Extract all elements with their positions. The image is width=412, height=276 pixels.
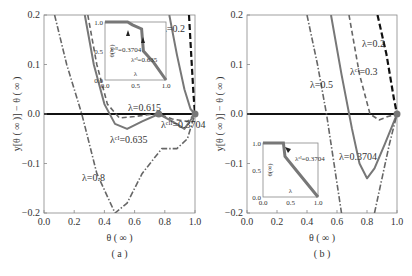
x-tick-label: 0.2 (68, 216, 81, 227)
inset-x-tick: 0.5 (131, 82, 140, 90)
curve-annotation: λ=0.3704 (339, 151, 377, 162)
x-tick-label: 0.8 (159, 216, 172, 227)
series-line (375, 114, 398, 213)
x-tick-label: 0.8 (361, 216, 374, 227)
panel-label: ( b ) (314, 248, 331, 260)
y-tick-label: −0.2 (225, 207, 243, 218)
inset-x-tick: 0.5 (286, 199, 295, 207)
marker-point (192, 111, 199, 118)
inset-y-tick: 1.0 (94, 19, 103, 27)
curve-annotation: λ=0.615 (128, 102, 161, 113)
chart-svg: 0.00.20.40.60.81.00.20.10.0−0.1−0.2λ=0.2… (0, 0, 412, 276)
y-axis-label: y[θ ( ∞ )] − θ ( ∞ ) (214, 77, 226, 151)
marker-point (394, 111, 401, 118)
y-tick-label: 0.0 (28, 108, 41, 119)
inset-y-label: θ(∞) (266, 163, 274, 177)
curve-annotation: λ=0.8 (82, 172, 105, 183)
y-tick-label: −0.1 (22, 158, 40, 169)
inset-x-label: λ (289, 187, 293, 195)
x-tick-label: 0.4 (301, 216, 314, 227)
inset-y-tick: 1.0 (252, 140, 261, 148)
inset-x-tick: 1.0 (314, 199, 323, 207)
y-tick-label: −0.2 (22, 207, 40, 218)
y-tick-label: 0.1 (231, 59, 244, 70)
panel-a: 0.00.20.40.60.81.00.20.10.0−0.1−0.2λ=0.2… (11, 9, 206, 260)
curve-annotation: λᶜᴵ=0.635 (110, 134, 148, 145)
inset-x-tick: 1.0 (162, 82, 171, 90)
curve-annotation: λ=0.2 (362, 38, 385, 49)
x-axis-label: θ ( ∞ ) (309, 232, 335, 244)
inset-annotation: λᶜᴵ=0.3704 (295, 155, 325, 163)
inset-annotation: λᶜᴵ=0.635 (131, 56, 158, 64)
panel-label: ( a ) (111, 248, 127, 260)
x-tick-label: 1.0 (391, 216, 404, 227)
x-tick-label: 0.6 (331, 216, 344, 227)
series-line (378, 15, 398, 114)
x-tick-label: 1.0 (189, 216, 202, 227)
series-line (189, 15, 195, 114)
x-tick-label: 0.2 (271, 216, 284, 227)
panel-b: 0.00.20.40.60.81.00.20.10.0−0.1−0.2λ=0.2… (214, 9, 403, 260)
inset-y-tick: 0.5 (94, 48, 103, 56)
inset-y-tick: 0.0 (94, 77, 103, 85)
y-tick-label: −0.1 (225, 158, 243, 169)
inset-y-tick: 0.5 (252, 167, 261, 175)
y-axis-label: y[θ ( ∞ )] − θ ( ∞ ) (11, 77, 23, 151)
curve-annotation: λᶜᴵᴵ=0.3704 (161, 119, 206, 130)
y-tick-label: 0.0 (231, 108, 244, 119)
x-axis-label: θ ( ∞ ) (106, 232, 132, 244)
inset-x-label: λ (134, 70, 138, 78)
curve-annotation: λᶜᴵ=0.3 (350, 66, 378, 77)
y-tick-label: 0.2 (231, 9, 244, 20)
inset-y-tick: 0.0 (252, 194, 261, 202)
inset-annotation: λᶜᴵᴵ=0.3704 (110, 46, 142, 54)
figure: 0.00.20.40.60.81.00.20.10.0−0.1−0.2λ=0.2… (0, 0, 412, 276)
x-tick-label: 0.6 (128, 216, 141, 227)
curve-annotation: λ=0.5 (310, 79, 333, 90)
x-tick-label: 0.4 (98, 216, 111, 227)
y-tick-label: 0.1 (28, 59, 41, 70)
y-tick-label: 0.2 (28, 9, 41, 20)
